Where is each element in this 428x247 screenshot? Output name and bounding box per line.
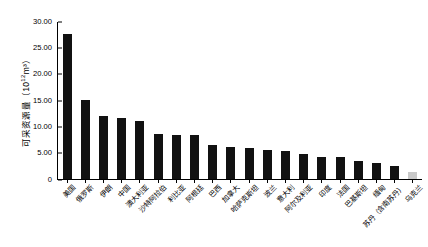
- bar-slot: [131, 22, 149, 179]
- bar-slot: [258, 22, 276, 179]
- y-axis-title-unit: m³）: [21, 55, 31, 75]
- y-axis-title-exponent: 12: [20, 74, 26, 81]
- y-axis-tick-label: 0: [48, 174, 52, 183]
- bar[interactable]: [135, 121, 144, 179]
- bar-slot: [313, 22, 331, 179]
- plot-area: 05.0010.0015.0020.0025.0030.00: [57, 22, 422, 180]
- bar-series: [58, 22, 422, 179]
- bar-slot: [349, 22, 367, 179]
- y-axis-title: 可采资源量（1012m³）: [19, 16, 31, 186]
- bar-slot: [58, 22, 76, 179]
- bar-slot: [94, 22, 112, 179]
- bar[interactable]: [81, 100, 90, 179]
- y-axis-tick-mark: [58, 179, 62, 180]
- x-axis-labels: 美国俄罗斯伊朗中国澳大利亚沙特阿拉伯利比亚阿根廷巴西加拿大哈萨克斯坦波兰意大利阿…: [57, 182, 422, 246]
- bar[interactable]: [117, 118, 126, 179]
- y-axis-tick-label: 10.00: [33, 121, 52, 130]
- bar-slot: [204, 22, 222, 179]
- bar-slot: [149, 22, 167, 179]
- bar-slot: [240, 22, 258, 179]
- bar-slot: [295, 22, 313, 179]
- bar-slot: [367, 22, 385, 179]
- bar-slot: [276, 22, 294, 179]
- bar-slot: [331, 22, 349, 179]
- bar-slot: [185, 22, 203, 179]
- bar-slot: [404, 22, 422, 179]
- y-axis-tick-label: 25.00: [33, 42, 52, 51]
- bar-slot: [76, 22, 94, 179]
- bar[interactable]: [63, 34, 72, 179]
- bar-slot: [113, 22, 131, 179]
- y-axis-title-text: 可采资源量（10: [21, 82, 31, 148]
- y-axis-tick-label: 5.00: [37, 148, 52, 157]
- y-axis-tick-label: 15.00: [33, 95, 52, 104]
- bar-slot: [167, 22, 185, 179]
- bar-slot: [386, 22, 404, 179]
- shale-gas-resources-bar-chart: 可采资源量（1012m³） 05.0010.0015.0020.0025.003…: [0, 0, 428, 247]
- y-axis-tick-label: 20.00: [33, 69, 52, 78]
- y-axis-tick-label: 30.00: [33, 16, 52, 25]
- bar-slot: [222, 22, 240, 179]
